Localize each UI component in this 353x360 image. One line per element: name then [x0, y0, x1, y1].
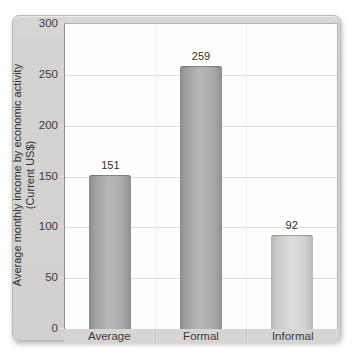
bar-group: 92 [246, 24, 337, 329]
category-label-formal: Formal [155, 329, 247, 343]
y-tick-label: 0 [13, 322, 58, 334]
bar-value-label: 259 [156, 50, 247, 62]
bar-formal [180, 66, 222, 329]
y-tick-label: 100 [13, 220, 58, 232]
y-tick-label: 300 [13, 17, 58, 29]
y-tick-label: 250 [13, 68, 58, 80]
category-label-average: Average [64, 329, 155, 343]
y-tick-label: 150 [13, 170, 58, 182]
figure: Average monthly income by economic activ… [0, 0, 353, 360]
category-label-informal: Informal [246, 329, 338, 343]
plot-area: 15125992 [64, 23, 338, 330]
bar-average [89, 175, 131, 329]
bar-group: 151 [65, 24, 156, 329]
x-axis-labels: AverageFormalInformal [64, 329, 338, 343]
chart-card: Average monthly income by economic activ… [12, 15, 341, 341]
bar-informal [271, 235, 313, 329]
bar-value-label: 151 [65, 159, 156, 171]
y-tick-label: 50 [13, 271, 58, 283]
bar-value-label: 92 [246, 219, 337, 231]
y-tick-label: 200 [13, 119, 58, 131]
bar-group: 259 [156, 24, 247, 329]
